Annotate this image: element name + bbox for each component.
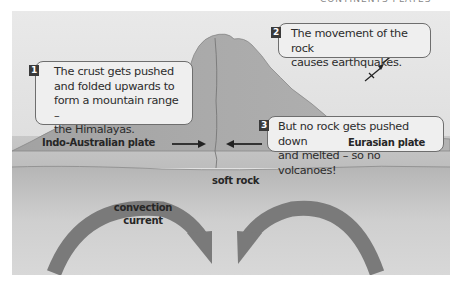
eurasian-plate-label: Eurasian plate (348, 137, 425, 148)
convection-label-line: convection (108, 201, 178, 214)
soft-rock-label: soft rock (212, 175, 259, 186)
callout-line: form a mountain range – (54, 94, 184, 123)
callout-line: causes earthquakes. (291, 56, 422, 71)
callout-line: and folded upwards to (54, 80, 184, 95)
callout-line: The movement of the rock (291, 27, 422, 56)
indo-australian-plate-label: Indo-Australian plate (42, 137, 155, 148)
callout-line: The crust gets pushed (54, 65, 184, 80)
callout-crust-folding: 1 The crust gets pushed and folded upwar… (35, 61, 193, 125)
diagram-frame: 1 The crust gets pushed and folded upwar… (12, 11, 450, 275)
callout-line: and melted – so no volcanoes! (278, 149, 435, 178)
step-number-badge: 3 (259, 120, 269, 131)
step-number-badge: 1 (29, 65, 39, 76)
cut-off-heading: CONTINENTS PLATES (320, 0, 455, 4)
callout-line: the Himalayas. (54, 123, 184, 138)
callout-earthquakes: 2 The movement of the rock causes earthq… (278, 23, 431, 58)
convection-label-line: current (108, 214, 178, 227)
step-number-badge: 2 (271, 27, 281, 38)
convection-current-label: convection current (108, 201, 178, 227)
